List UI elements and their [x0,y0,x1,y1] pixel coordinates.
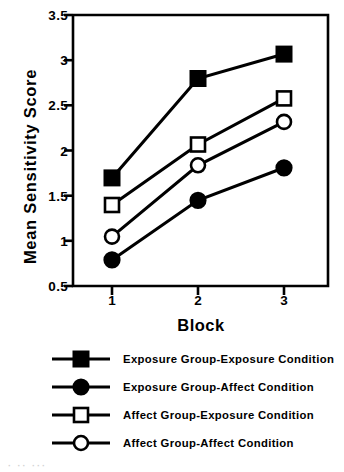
chart-plot-area: 3.5 3 2.5 2 1.5 1 0.5 1 2 3 Mean Sensiti… [0,0,344,344]
data-point-marker [277,47,292,62]
figure-container: 3.5 3 2.5 2 1.5 1 0.5 1 2 3 Mean Sensiti… [0,0,344,472]
legend-label: Affect Group-Affect Condition [123,430,294,456]
legend-item-affect-group-affect-condition: Affect Group-Affect Condition [0,430,344,456]
x-tick-label-2: 2 [178,293,218,308]
x-tick-label-1: 1 [92,293,132,308]
legend-label: Exposure Group-Exposure Condition [123,346,334,372]
data-point-marker [276,160,291,175]
x-tick-label-3: 3 [264,293,304,308]
legend-key-open-square-icon [50,402,112,428]
x-axis-title: Block [73,316,329,335]
series-affect-group-affect-condition [105,115,291,244]
clipped-scan-artifact: · ·· ··· [8,463,47,470]
y-axis-title: Mean Sensitivity Score [21,42,40,292]
legend-key-filled-square-icon [50,346,112,372]
data-point-marker [105,198,119,212]
data-point-marker [277,115,291,129]
data-point-marker [104,252,119,267]
data-point-marker [105,170,120,185]
legend-label: Exposure Group-Affect Condition [123,374,314,400]
legend-key-filled-circle-icon [50,374,112,400]
series-exposure-group-affect-condition [104,160,291,267]
legend-label: Affect Group-Exposure Condition [123,402,314,428]
data-point-marker [191,138,205,152]
data-point-marker [191,71,206,86]
chart-legend: Exposure Group-Exposure Condition Exposu… [0,344,344,472]
legend-item-exposure-group-exposure-condition: Exposure Group-Exposure Condition [0,346,344,372]
data-point-marker [190,193,205,208]
data-point-marker [105,230,119,244]
legend-item-exposure-group-affect-condition: Exposure Group-Affect Condition [0,374,344,400]
data-point-marker [191,158,205,172]
data-point-marker [277,91,291,105]
y-tick-label-3.5: 3.5 [8,8,68,23]
legend-key-open-circle-icon [50,430,112,456]
legend-item-affect-group-exposure-condition: Affect Group-Exposure Condition [0,402,344,428]
